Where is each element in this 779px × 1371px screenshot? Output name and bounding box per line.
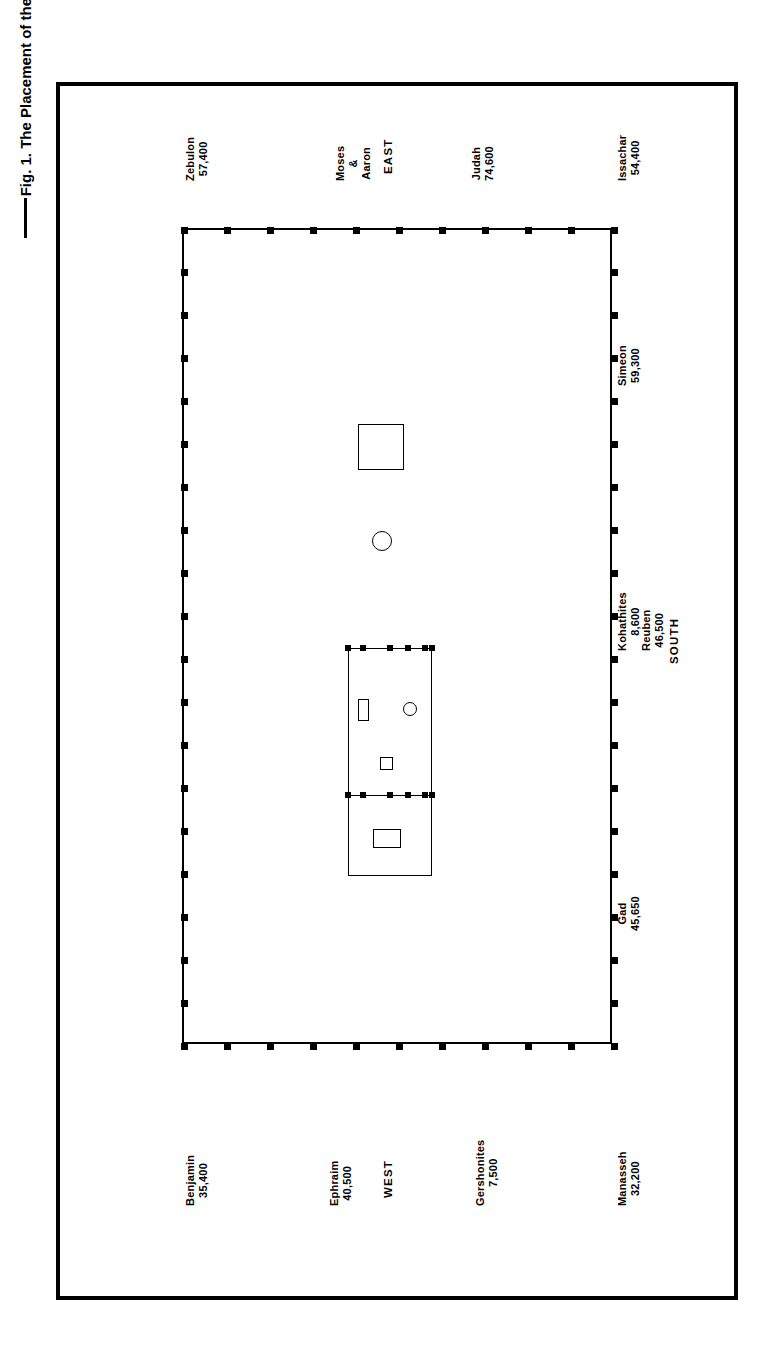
perimeter-dot-left — [181, 914, 188, 921]
perimeter-dot-bottom — [224, 1043, 231, 1050]
caption-rule-left — [24, 198, 27, 238]
perimeter-dot-bottom — [396, 1043, 403, 1050]
perimeter-dot-top — [267, 227, 274, 234]
perimeter-dot-bottom — [267, 1043, 274, 1050]
perimeter-dot-top — [611, 227, 618, 234]
perimeter-dot-left — [181, 484, 188, 491]
levite-name-kohathites: Kohathites — [616, 592, 629, 651]
perimeter-dot-left — [181, 441, 188, 448]
tribe-label-zebulon: Zebulon 57,400 — [184, 137, 210, 181]
bronze-altar-symbol — [373, 829, 401, 848]
tribe-name-ephraim: Ephraim — [328, 1161, 341, 1206]
tribe-name-issachar: Issachar — [616, 135, 629, 181]
perimeter-dot-right — [611, 398, 618, 405]
levite-label-gershonites: Gershonites 7,500 — [474, 1140, 500, 1206]
court-dot-divider — [405, 792, 411, 798]
perimeter-dot-right — [611, 871, 618, 878]
tribe-name-gad: Gad — [616, 896, 629, 931]
table-of-showbread-symbol — [358, 699, 369, 721]
court-dot-divider — [422, 792, 428, 798]
perimeter-dot-left — [181, 871, 188, 878]
perimeter-dot-left — [181, 312, 188, 319]
tribe-count-benjamin: 35,400 — [197, 1155, 210, 1206]
perimeter-dot-bottom — [525, 1043, 532, 1050]
tribe-label-benjamin: Benjamin 35,400 — [184, 1155, 210, 1206]
tribe-label-ephraim: Ephraim 40,500 — [328, 1161, 354, 1206]
tribe-label-simeon: Simeon 59,300 — [616, 345, 642, 386]
perimeter-dot-right — [611, 742, 618, 749]
perimeter-dot-left — [181, 269, 188, 276]
direction-label-west: WEST — [382, 1160, 396, 1198]
perimeter-dot-top — [181, 227, 188, 234]
court-dot-top — [360, 645, 366, 651]
tribe-count-judah: 74,600 — [483, 146, 496, 181]
perimeter-dot-bottom — [568, 1043, 575, 1050]
lampstand-symbol — [403, 702, 417, 716]
perimeter-dot-right — [611, 441, 618, 448]
perimeter-dot-left — [181, 1000, 188, 1007]
tribe-name-manasseh: Manasseh — [616, 1151, 629, 1206]
perimeter-dot-left — [181, 742, 188, 749]
perimeter-dot-bottom — [353, 1043, 360, 1050]
outer-altar-square-symbol — [358, 424, 404, 470]
perimeter-dot-top — [224, 227, 231, 234]
perimeter-dot-right — [611, 613, 618, 620]
tribe-count-gad: 45,650 — [629, 896, 642, 931]
tribe-name-zebulon: Zebulon — [184, 137, 197, 181]
perimeter-dot-left — [181, 398, 188, 405]
tribe-label-gad: Gad 45,650 — [616, 896, 642, 931]
perimeter-dot-left — [181, 613, 188, 620]
tribe-count-zebulon: 57,400 — [197, 137, 210, 181]
tribe-label-issachar: Issachar 54,400 — [616, 135, 642, 181]
levite-label-kohathites: Kohathites 8,600 — [616, 592, 642, 651]
direction-label-east: EAST — [382, 139, 396, 174]
perimeter-dot-right — [611, 656, 618, 663]
direction-label-south: SOUTH — [668, 618, 682, 664]
leader-aaron: Aaron — [360, 146, 373, 181]
tribe-count-simeon: 59,300 — [629, 345, 642, 386]
tribe-label-judah: Judah 74,600 — [470, 146, 496, 181]
court-dot-divider — [345, 792, 351, 798]
caption-text: Fig. 1. The Placement of the Tribes — [18, 0, 33, 196]
tribe-name-simeon: Simeon — [616, 345, 629, 386]
perimeter-dot-right — [611, 269, 618, 276]
perimeter-dot-top — [353, 227, 360, 234]
altar-of-incense-symbol — [380, 757, 393, 770]
tribe-label-reuben: Reuben 46,500 — [640, 609, 666, 651]
tribe-count-ephraim: 40,500 — [341, 1161, 354, 1206]
figure-caption: Fig. 1. The Placement of the Tribes — [12, 0, 38, 238]
tribe-name-reuben: Reuben — [640, 609, 653, 651]
perimeter-dot-left — [181, 828, 188, 835]
perimeter-dot-right — [611, 828, 618, 835]
tribe-count-reuben: 46,500 — [653, 609, 666, 651]
tribe-name-benjamin: Benjamin — [184, 1155, 197, 1206]
perimeter-dot-left — [181, 527, 188, 534]
court-dot-top — [405, 645, 411, 651]
court-dot-top — [429, 645, 435, 651]
perimeter-dot-right — [611, 527, 618, 534]
perimeter-dot-right — [611, 355, 618, 362]
perimeter-dot-bottom — [482, 1043, 489, 1050]
camp-perimeter — [182, 228, 612, 1044]
tribe-count-manasseh: 32,200 — [629, 1151, 642, 1206]
perimeter-dot-bottom — [310, 1043, 317, 1050]
perimeter-dot-top — [568, 227, 575, 234]
perimeter-dot-right — [611, 484, 618, 491]
tribe-label-manasseh: Manasseh 32,200 — [616, 1151, 642, 1206]
perimeter-dot-right — [611, 699, 618, 706]
perimeter-dot-top — [525, 227, 532, 234]
figure-page: Fig. 1. The Placement of the Tribes Zebu… — [0, 0, 779, 1371]
perimeter-dot-bottom — [611, 1043, 618, 1050]
perimeter-dot-right — [611, 1000, 618, 1007]
levite-name-gershonites: Gershonites — [474, 1140, 487, 1206]
perimeter-dot-bottom — [439, 1043, 446, 1050]
leader-moses: Moses — [334, 146, 347, 181]
perimeter-dot-top — [482, 227, 489, 234]
court-dot-divider — [360, 792, 366, 798]
perimeter-dot-top — [396, 227, 403, 234]
perimeter-dot-left — [181, 656, 188, 663]
perimeter-dot-left — [181, 570, 188, 577]
perimeter-dot-right — [611, 312, 618, 319]
perimeter-dot-bottom — [181, 1043, 188, 1050]
tribe-name-judah: Judah — [470, 146, 483, 181]
